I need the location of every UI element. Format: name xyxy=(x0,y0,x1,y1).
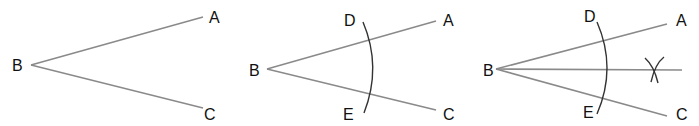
label-a: A xyxy=(676,12,687,29)
panel-2-arc: B A C D E xyxy=(249,12,455,123)
label-d: D xyxy=(344,12,356,29)
label-d: D xyxy=(584,8,596,25)
ray-bc xyxy=(267,69,436,110)
label-a: A xyxy=(443,12,454,29)
ray-bc xyxy=(31,65,203,108)
ray-ba xyxy=(496,24,667,69)
label-c: C xyxy=(204,106,216,123)
label-c: C xyxy=(443,106,455,123)
angle-bisection-diagram: B A C B A C D E B A C D E xyxy=(0,0,699,126)
label-e: E xyxy=(343,106,354,123)
panel-1-angle: B A C xyxy=(12,9,220,123)
label-b: B xyxy=(249,62,260,79)
label-e: E xyxy=(583,104,594,121)
label-c: C xyxy=(676,106,688,123)
ray-bc xyxy=(496,69,667,116)
arc-de xyxy=(597,22,607,114)
ray-ba xyxy=(31,17,203,65)
panel-3-bisector: B A C D E xyxy=(483,8,688,123)
diagram-canvas: B A C B A C D E B A C D E xyxy=(0,0,699,126)
label-b: B xyxy=(12,57,23,74)
label-a: A xyxy=(209,9,220,26)
label-b: B xyxy=(483,62,494,79)
arc-de xyxy=(363,22,373,113)
